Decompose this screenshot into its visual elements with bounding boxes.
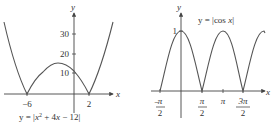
left-curve xyxy=(4,22,113,94)
right-y-tick-label-1: 1 xyxy=(173,26,178,36)
right-chart: y x 1 y = |cos x| − π 2 π 2 π 3π 2 xyxy=(151,2,270,118)
left-x-tick-label-neg6: −6 xyxy=(22,99,32,109)
right-x-axis-label: x xyxy=(265,87,270,97)
left-y-tick-label-30: 30 xyxy=(60,29,70,39)
charts-canvas: y x 30 20 10 −6 2 y = |x2 + 4x − 12| y x… xyxy=(0,0,272,128)
right-curve xyxy=(160,31,265,91)
left-y-tick-label-20: 20 xyxy=(60,49,70,59)
left-y-axis-label: y xyxy=(70,2,75,12)
svg-text:2: 2 xyxy=(241,108,246,118)
svg-text:2: 2 xyxy=(158,108,163,118)
left-y-tick-label-10: 10 xyxy=(60,68,70,78)
left-x-tick-label-2: 2 xyxy=(87,99,92,109)
right-x-tick-label-neg-half-pi: − π 2 xyxy=(154,96,165,118)
right-x-tick-label-three-half-pi: 3π 2 xyxy=(236,96,250,118)
svg-text:π: π xyxy=(158,96,163,106)
left-x-axis-label: x xyxy=(115,89,120,99)
left-equation-label: y = |x2 + 4x − 12| xyxy=(19,112,81,122)
right-equation-label: y = |cos x| xyxy=(198,15,234,25)
right-x-tick-label-pi: π xyxy=(221,96,226,106)
svg-text:3π: 3π xyxy=(237,96,248,106)
right-y-axis-label: y xyxy=(176,2,181,12)
svg-text:π: π xyxy=(200,96,205,106)
svg-text:2: 2 xyxy=(200,108,205,118)
left-chart: y x 30 20 10 −6 2 y = |x2 + 4x − 12| xyxy=(4,2,120,122)
right-x-tick-label-half-pi: π 2 xyxy=(198,96,207,118)
